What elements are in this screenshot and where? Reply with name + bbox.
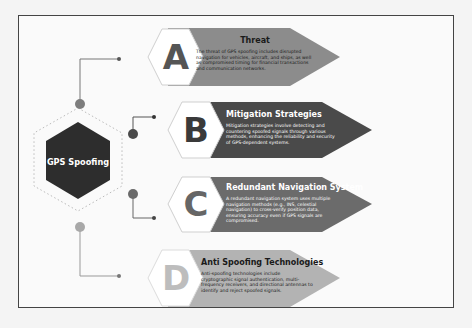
node-dot-d xyxy=(75,222,85,232)
connector-line-a xyxy=(80,59,119,104)
node-dot-a xyxy=(75,99,85,109)
connector-end-dot-d xyxy=(117,274,121,278)
connector-line-d xyxy=(80,227,119,276)
card-description: The threat of GPS spoofing includes disr… xyxy=(196,49,314,71)
card-anti-spoofing-technologies: Anti Spoofing Technologies Anti-spoofing… xyxy=(201,258,313,293)
card-title: Mitigation Strategies xyxy=(226,110,340,120)
card-redundant-navigation-system: Redundant Navigation System A redundant … xyxy=(226,183,336,224)
letter-d: D xyxy=(156,258,196,298)
connector-end-dot-c xyxy=(152,216,156,220)
connector-end-dot-b xyxy=(152,115,156,119)
card-threat: Threat The threat of GPS spoofing includ… xyxy=(196,36,314,71)
node-dot-c xyxy=(128,189,138,199)
letter-a: A xyxy=(156,37,196,77)
center-label: GPS Spoofing xyxy=(46,157,110,167)
card-title: Anti Spoofing Technologies xyxy=(201,258,313,268)
letter-c: C xyxy=(176,184,216,224)
card-title: Redundant Navigation System xyxy=(226,183,336,193)
card-mitigation-strategies: Mitigation Strategies Mitigation strateg… xyxy=(226,110,340,145)
card-description: A redundant navigation system uses multi… xyxy=(226,196,336,224)
card-title: Threat xyxy=(196,36,314,46)
connector-end-dot-a xyxy=(117,57,121,61)
letter-b: B xyxy=(176,110,216,150)
node-dot-b xyxy=(128,129,138,139)
card-description: Mitigation strategies involve detecting … xyxy=(226,123,340,145)
card-description: Anti-spoofing technologies include crypt… xyxy=(201,271,313,293)
